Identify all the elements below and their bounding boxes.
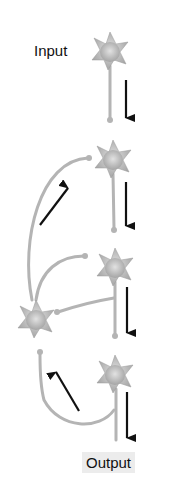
output-neuron <box>97 355 133 393</box>
neural-circuit-diagram <box>0 0 171 490</box>
collateral-n3-to-interneuron <box>58 298 114 312</box>
input-label: Input <box>34 43 67 58</box>
axon-n2 <box>113 174 114 228</box>
feedback-interneuron <box>18 300 54 338</box>
relay-neuron-1 <box>95 140 131 178</box>
feedback-to-n3 <box>36 256 84 300</box>
arrow-up-left-icon <box>56 372 79 411</box>
input-neuron <box>92 32 128 70</box>
relay-neuron-2 <box>97 248 133 286</box>
output-label: Output <box>82 452 135 473</box>
feedback-to-n2 <box>29 158 88 300</box>
